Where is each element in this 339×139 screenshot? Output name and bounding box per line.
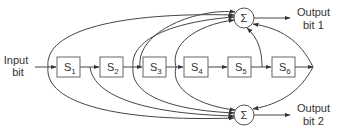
svg-text:Σ: Σ — [241, 12, 248, 24]
sum-node-bottom: Σ — [234, 105, 254, 125]
register-s1: S1 — [57, 57, 80, 77]
register-s4: S4 — [184, 57, 208, 77]
svg-text:Σ: Σ — [241, 109, 248, 121]
output-1-label-line1: Output — [297, 6, 330, 18]
sum-node-top: Σ — [234, 8, 254, 28]
input-label-line1: Input — [4, 54, 28, 66]
output-1-label-line2: bit 1 — [303, 19, 324, 31]
encoder-diagram: Input bit S1 S2 S3 S4 S5 S6 Σ Σ O — [0, 0, 339, 139]
register-s6: S6 — [272, 57, 295, 77]
register-s3: S3 — [143, 57, 166, 77]
output-2-label-line1: Output — [297, 102, 330, 114]
register-s2: S2 — [100, 57, 123, 77]
register-s5: S5 — [228, 57, 251, 77]
output-2-label-line2: bit 2 — [303, 115, 324, 127]
input-label-line2: bit — [12, 66, 24, 78]
